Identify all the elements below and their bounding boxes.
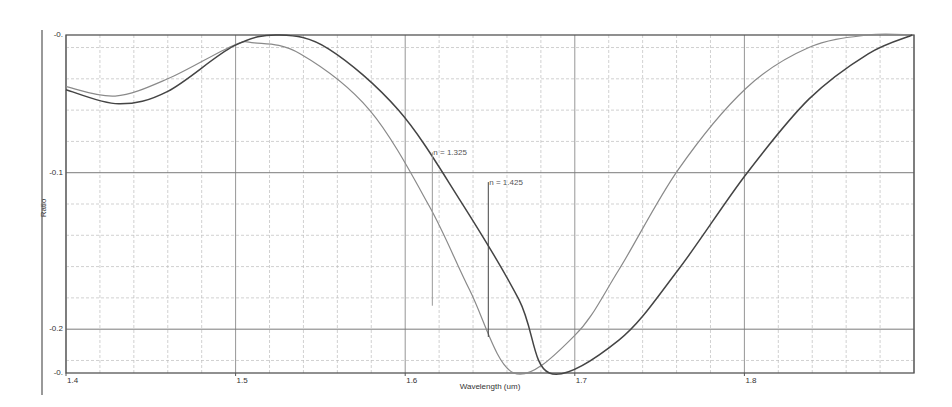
y-tick-label: -0. — [54, 30, 63, 39]
chart: n = 1.325n = 1.425 1.41.51.61.71.8 -0.-0… — [0, 0, 952, 407]
x-tick-label: 1.4 — [67, 376, 79, 385]
line-chart-plot: n = 1.325n = 1.425 1.41.51.61.71.8 -0.-0… — [0, 0, 952, 407]
x-axis-ticks: 1.41.51.61.71.8 — [66, 373, 757, 385]
y-tick-label: -0. — [54, 368, 63, 377]
y-axis-label: Ratio — [39, 198, 48, 217]
x-tick-label: 1.6 — [406, 376, 418, 385]
marker-label: n = 1.325 — [433, 148, 467, 157]
grid-lines — [66, 35, 914, 373]
marker-label: n = 1.425 — [489, 178, 523, 187]
x-tick-label: 1.5 — [237, 376, 249, 385]
y-tick-label: -0.1 — [49, 168, 63, 177]
series-line-2 — [66, 35, 912, 374]
x-tick-label: 1.8 — [745, 376, 757, 385]
y-axis-ticks: -0.-0.1-0.2-0. — [49, 30, 63, 377]
y-tick-label: -0.2 — [49, 324, 63, 333]
x-axis-label: Wavelength (um) — [460, 382, 521, 391]
x-tick-label: 1.7 — [576, 376, 588, 385]
